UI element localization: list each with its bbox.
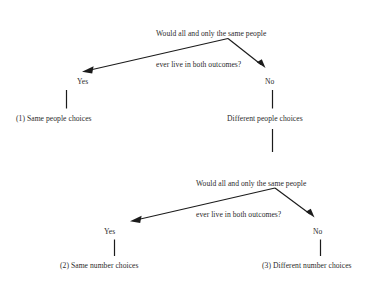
outcome-node-2: Different people choices — [227, 114, 303, 124]
branch-label-q2-yes: Yes — [104, 227, 115, 237]
branch-label-q2-no: No — [313, 227, 322, 237]
question-1-line-1: Would all and only the same people — [156, 29, 356, 39]
question-node-2: Would all and only the same people ever … — [196, 158, 384, 231]
branch-label-q1-no: No — [265, 77, 274, 87]
outcome-node-4: (3) Different number choices — [262, 261, 352, 271]
question-2-line-2: ever live in both outcomes? — [196, 210, 384, 220]
question-1-line-2: ever live in both outcomes? — [156, 60, 356, 70]
question-node-1: Would all and only the same people ever … — [156, 8, 356, 81]
outcome-node-1: (1) Same people choices — [16, 114, 92, 124]
question-2-line-1: Would all and only the same people — [196, 179, 384, 189]
outcome-node-3: (2) Same number choices — [60, 261, 139, 271]
branch-label-q1-yes: Yes — [77, 77, 88, 87]
